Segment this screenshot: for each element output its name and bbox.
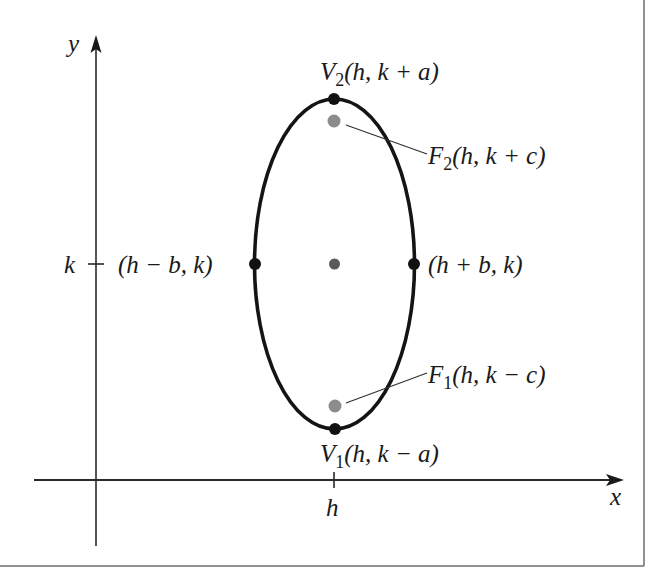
co-vertex-right-dot bbox=[408, 258, 420, 270]
vertex-v1-dot bbox=[329, 423, 341, 435]
focus-f1-dot bbox=[329, 400, 342, 413]
label-f1: F1(h, k − c) bbox=[427, 361, 546, 393]
vertex-v2-dot bbox=[328, 93, 340, 105]
center-dot bbox=[329, 259, 340, 270]
diagram-canvas: y x h k V2(h, k + a) F2(h, k + c) (h − b… bbox=[0, 0, 666, 569]
y-axis: y bbox=[65, 30, 102, 546]
label-left-co-vertex: (h − b, k) bbox=[118, 251, 213, 279]
f1-leader-line bbox=[346, 373, 427, 403]
x-axis-label: x bbox=[609, 483, 621, 510]
label-right-co-vertex: (h + b, k) bbox=[428, 251, 523, 279]
label-v1: V1(h, k − a) bbox=[320, 440, 439, 472]
label-f2: F2(h, k + c) bbox=[427, 142, 546, 174]
label-v2: V2(h, k + a) bbox=[320, 58, 439, 90]
focus-f2-dot bbox=[328, 115, 341, 128]
f2-leader-line bbox=[346, 125, 427, 154]
y-tick-label-k: k bbox=[64, 251, 76, 278]
co-vertex-left-dot bbox=[249, 258, 261, 270]
ellipse-diagram: y x h k V2(h, k + a) F2(h, k + c) (h − b… bbox=[0, 0, 666, 569]
y-axis-label: y bbox=[65, 30, 80, 57]
x-tick-label-h: h bbox=[326, 494, 339, 521]
